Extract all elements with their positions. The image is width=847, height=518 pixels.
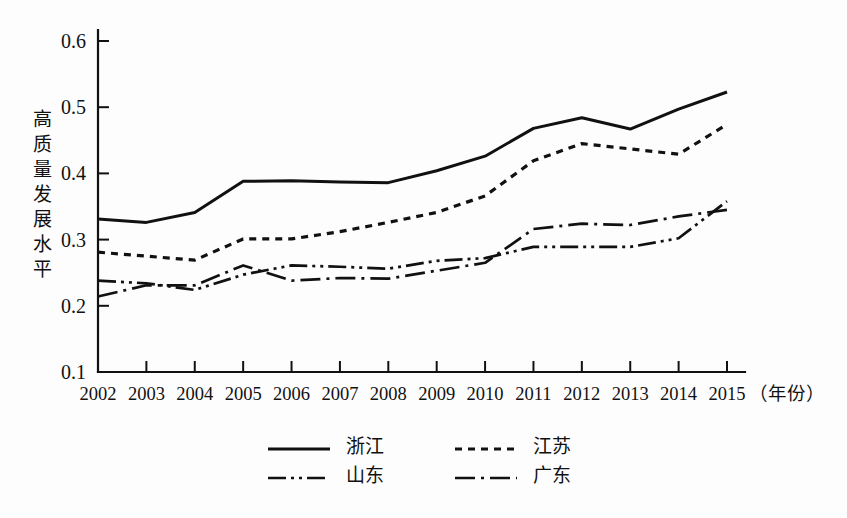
chart-series-group [98, 92, 727, 297]
y-tick-label: 0.2 [61, 295, 86, 317]
legend-label-1: 江苏 [533, 436, 571, 457]
series-line-0 [98, 92, 727, 222]
chart-legend: 浙江江苏山东广东 [268, 436, 571, 486]
line-chart-figure: 高质量发展水平 0.10.20.30.40.50.6 2002200320042… [0, 0, 847, 518]
x-tick-label: 2013 [612, 384, 649, 404]
x-tick-label: 2015 [709, 384, 746, 404]
chart-canvas: 高质量发展水平 0.10.20.30.40.50.6 2002200320042… [0, 0, 847, 518]
y-axis-title-char: 平 [33, 259, 52, 280]
y-axis-title-char: 量 [33, 159, 52, 180]
x-tick-label: 2006 [273, 384, 310, 404]
y-axis-title-char: 发 [33, 184, 52, 205]
series-line-1 [98, 124, 727, 260]
x-tick-label: 2004 [176, 384, 213, 404]
x-tick-label: 2008 [370, 384, 407, 404]
y-axis-title-char: 质 [33, 134, 52, 155]
y-axis-title-char: 高 [33, 109, 52, 130]
series-line-2 [98, 201, 727, 290]
y-tick-label: 0.6 [61, 30, 86, 52]
y-axis-title-char: 水 [33, 234, 52, 255]
y-tick-label: 0.1 [61, 361, 86, 383]
legend-label-2: 山东 [346, 465, 384, 486]
y-axis-ticks: 0.10.20.30.40.50.6 [61, 30, 109, 383]
x-tick-label: 2014 [660, 384, 697, 404]
x-tick-label: 2002 [80, 384, 117, 404]
x-tick-label: 2010 [467, 384, 504, 404]
y-tick-label: 0.4 [61, 162, 86, 184]
legend-label-0: 浙江 [346, 436, 384, 457]
y-tick-label: 0.3 [61, 229, 86, 251]
x-tick-label: 2003 [128, 384, 165, 404]
y-axis-title: 高质量发展水平 [33, 109, 52, 280]
x-tick-label: 2005 [225, 384, 262, 404]
x-axis-ticks: 2002200320042005200620072008200920102011… [80, 361, 746, 404]
x-tick-label: 2011 [515, 384, 551, 404]
x-tick-label: 2009 [418, 384, 455, 404]
x-tick-label: 2007 [321, 384, 358, 404]
y-tick-label: 0.5 [61, 96, 86, 118]
y-axis-title-char: 展 [33, 209, 52, 230]
x-tick-label: 2012 [563, 384, 600, 404]
series-line-3 [98, 210, 727, 297]
x-axis-unit-label: （年份） [749, 384, 825, 404]
legend-label-3: 广东 [533, 465, 571, 486]
